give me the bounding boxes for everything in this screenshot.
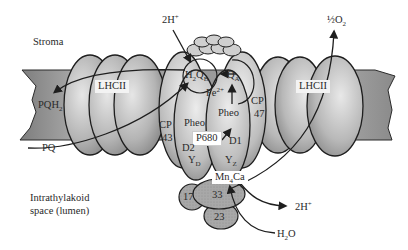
lhcii-right-label: LHCII (296, 80, 330, 93)
pq-label: PQ (42, 143, 55, 154)
pheo-left-label: Pheo (184, 118, 205, 129)
pqh2-label: PQH2 (38, 100, 63, 111)
oxygen-label: ½O2 (327, 15, 346, 26)
extrinsic-17-label: 17 (183, 192, 194, 203)
extrinsic-23-label: 23 (214, 212, 225, 223)
lhcii-right-complex (253, 56, 363, 156)
p680-label: P680 (192, 131, 222, 146)
d1-label: D1 (229, 136, 242, 147)
stroma-label: Stroma (33, 37, 63, 48)
cp47-label-line1: CP (251, 96, 264, 107)
lumen-label-line1: Intrathylakoid (30, 193, 89, 204)
qa-label: QA (227, 70, 240, 81)
proton-release-label: 2H+ (295, 202, 312, 213)
yz-label: YZ (225, 155, 237, 166)
extrinsic-33-label: 33 (212, 190, 223, 201)
proton-uptake-label: 2H+ (162, 15, 179, 26)
cp43-label-line2: 43 (162, 133, 173, 144)
cp47-label-line2: 47 (254, 109, 265, 120)
lhcii-left-label: LHCII (95, 80, 129, 93)
water-label: H2O (277, 229, 296, 240)
d2-label: D2 (182, 143, 195, 154)
lumen-label-line2: space (lumen) (30, 206, 89, 217)
mn-cluster-label: Mn4Ca (212, 171, 248, 184)
stromal-bumps (187, 35, 241, 56)
qb-label: H2QB (185, 70, 208, 81)
fe-label: Fe2+ (206, 88, 224, 99)
pheo-right-label: Pheo (218, 108, 239, 119)
cp43-label-line1: CP (159, 120, 172, 131)
yd-label: YD (188, 155, 201, 166)
